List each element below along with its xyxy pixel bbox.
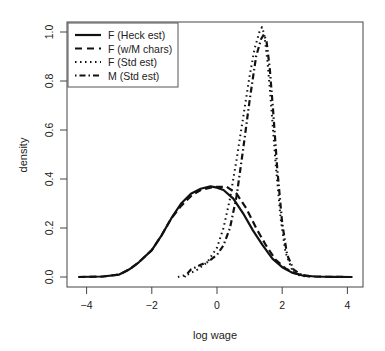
x-tick-label: 0 (214, 299, 220, 311)
series-solid (78, 186, 352, 277)
y-axis-label: density (17, 137, 29, 172)
legend: F (Heck est)F (w/M chars)F (Std est)M (S… (68, 23, 178, 87)
legend-label: F (Std est) (108, 56, 157, 68)
y-tick-label: 0.6 (43, 123, 55, 138)
series-dashed (78, 187, 352, 277)
legend-label: F (Heck est) (108, 29, 165, 41)
y-tick-label: 0.2 (43, 221, 55, 236)
legend-label: M (Std est) (108, 70, 159, 82)
legend-label: F (w/M chars) (108, 43, 172, 55)
y-tick-label: 0.4 (43, 172, 55, 187)
x-tick-label: 4 (344, 299, 350, 311)
y-tick-label: 1.0 (43, 25, 55, 40)
x-axis: −4−2024 (81, 287, 351, 311)
y-axis: 0.00.20.40.60.81.0 (43, 25, 67, 285)
y-tick-label: 0.0 (43, 270, 55, 285)
x-tick-label: −2 (146, 299, 158, 311)
series-dashdot (184, 34, 311, 277)
x-axis-label: log wage (193, 329, 237, 341)
x-tick-label: 2 (279, 299, 285, 311)
x-tick-label: −4 (81, 299, 93, 311)
y-tick-label: 0.8 (43, 74, 55, 89)
density-chart: 0.00.20.40.60.81.0 −4−2024 log wage dens… (0, 0, 385, 351)
series-dotted (178, 27, 308, 277)
